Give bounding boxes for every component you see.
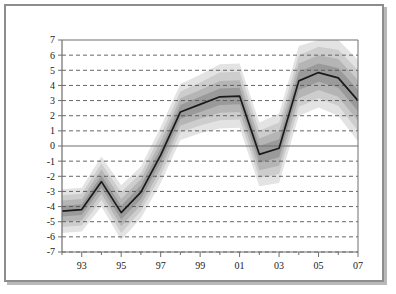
x-axis-tick-label: 97 — [156, 260, 166, 271]
fan-chart-plot: 76543210-1-2-3-4-5-6-7 9395979901030507 — [6, 6, 382, 280]
y-axis-tick-label: -7 — [47, 246, 55, 257]
y-axis-tick-label: -4 — [47, 201, 55, 212]
x-axis-tick-label: 95 — [116, 260, 126, 271]
y-axis-tick-label: -2 — [47, 171, 55, 182]
figure-frame: % of production capacity 76543210-1-2-3-… — [4, 4, 384, 282]
y-axis-tick-label: -6 — [47, 231, 55, 242]
x-axis-tick-label: 99 — [195, 260, 205, 271]
y-axis-tick-label: -3 — [47, 186, 55, 197]
y-axis-tick-label: 6 — [50, 50, 55, 61]
y-axis-tick-label: 4 — [50, 80, 55, 91]
y-axis-tick-label: 5 — [50, 65, 55, 76]
x-axis-tick-label: 05 — [314, 260, 324, 271]
x-axis-tick-label: 07 — [353, 260, 363, 271]
y-axis-tick-label: 2 — [50, 110, 55, 121]
x-axis-tick-label: 03 — [274, 260, 284, 271]
y-axis-tick-label: -1 — [47, 156, 55, 167]
y-axis-tick-label: 7 — [50, 34, 55, 45]
y-axis-tick-label: -5 — [47, 216, 55, 227]
x-axis-tick-label: 01 — [235, 260, 245, 271]
y-axis-tick-label: 3 — [50, 95, 55, 106]
y-axis-tick-label: 1 — [50, 125, 55, 136]
y-axis-tick-label: 0 — [50, 140, 55, 151]
x-axis-tick-label: 93 — [77, 260, 87, 271]
